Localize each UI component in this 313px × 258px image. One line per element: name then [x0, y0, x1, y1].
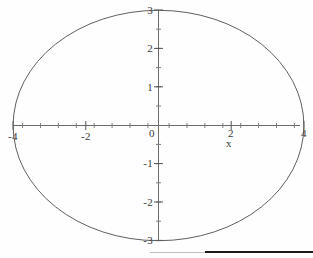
- y-tick-label-1: 1: [135, 82, 153, 93]
- y-tick-label--1: -1: [131, 158, 153, 169]
- x-tick-label--4: -4: [2, 131, 24, 142]
- page-edge-artifact: [205, 251, 313, 253]
- y-tick-label-2: 2: [135, 43, 153, 54]
- page-edge-artifact-soft: [150, 252, 208, 253]
- y-tick-label--3: -3: [131, 235, 153, 246]
- x-tick-label--2: -2: [75, 131, 97, 142]
- plot-screenshot: -4 -2 0 2 4 x 3 2 1 -1 -2 -3: [0, 0, 313, 258]
- y-tick-label-3: 3: [135, 5, 153, 16]
- x-tick-label-4: 4: [298, 128, 310, 139]
- x-tick-label-0: 0: [146, 128, 158, 139]
- x-axis-name: x: [226, 138, 232, 149]
- y-tick-label--2: -2: [131, 197, 153, 208]
